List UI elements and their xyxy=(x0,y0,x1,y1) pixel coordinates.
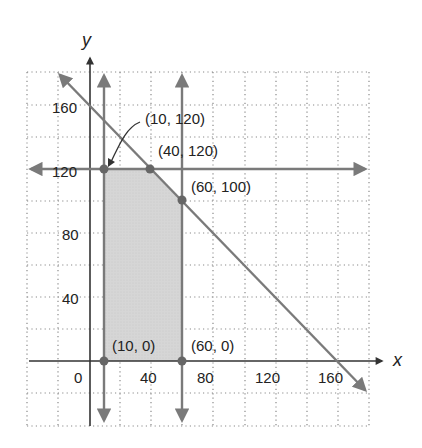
y-axis-label: y xyxy=(80,30,92,50)
x-axis-label: x xyxy=(392,350,403,370)
y-tick-80: 80 xyxy=(62,226,79,243)
y-tick-120: 120 xyxy=(52,163,77,180)
label-40-120: (40, 120) xyxy=(158,142,218,159)
point-60-100 xyxy=(178,196,187,205)
x-tick-40: 40 xyxy=(140,369,157,386)
label-10-120: (10, 120) xyxy=(145,110,205,127)
point-60-0 xyxy=(178,357,187,366)
label-10-0: (10, 0) xyxy=(112,337,155,354)
point-10-120 xyxy=(100,165,109,174)
linear-programming-graph: 0 40 80 120 160 160 120 80 40 x y (10, 1… xyxy=(0,0,422,448)
y-tick-40: 40 xyxy=(62,290,79,307)
x-tick-0: 0 xyxy=(74,369,82,386)
point-10-0 xyxy=(100,357,109,366)
y-tick-160: 160 xyxy=(52,99,77,116)
x-tick-80: 80 xyxy=(197,369,214,386)
label-60-100: (60, 100) xyxy=(191,178,251,195)
callout-arrowhead xyxy=(108,158,115,167)
x-tick-160: 160 xyxy=(318,369,343,386)
point-40-120 xyxy=(146,165,155,174)
label-60-0: (60, 0) xyxy=(191,337,234,354)
feasible-region xyxy=(104,169,182,361)
x-tick-120: 120 xyxy=(255,369,280,386)
